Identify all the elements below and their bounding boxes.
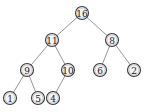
tree-nodes: 1611891062154 — [4, 7, 141, 105]
node-label: 16 — [76, 9, 88, 19]
node-label: 11 — [46, 36, 57, 46]
node-label: 1 — [7, 94, 13, 104]
tree-edges — [13, 17, 130, 92]
node-label: 10 — [62, 66, 74, 76]
node-label: 6 — [97, 66, 103, 76]
tree-edge-11-9 — [31, 45, 48, 65]
tree-edge-8-6 — [102, 46, 109, 64]
tree-edge-9-5 — [29, 76, 35, 92]
node-label: 5 — [35, 94, 41, 104]
heap-tree-diagram: 1611891062154 — [0, 0, 145, 112]
node-label: 4 — [50, 94, 56, 104]
tree-node-5: 5 — [32, 92, 45, 105]
tree-edge-10-4 — [56, 76, 65, 93]
tree-node-2: 2 — [128, 64, 141, 77]
tree-node-9: 9 — [21, 64, 34, 77]
tree-edge-8-2 — [116, 45, 130, 65]
tree-node-10: 10 — [62, 64, 75, 77]
tree-node-4: 4 — [47, 92, 60, 105]
tree-edge-16-11 — [57, 17, 77, 35]
tree-node-8: 8 — [106, 34, 119, 47]
tree-node-11: 11 — [46, 34, 59, 47]
node-label: 9 — [24, 66, 30, 76]
tree-node-6: 6 — [94, 64, 107, 77]
tree-node-1: 1 — [4, 92, 17, 105]
tree-edge-16-8 — [87, 17, 107, 35]
tree-edge-9-1 — [13, 76, 23, 93]
node-label: 8 — [109, 36, 115, 46]
tree-edge-11-10 — [55, 46, 65, 65]
tree-node-16: 16 — [76, 7, 89, 20]
node-label: 2 — [131, 66, 137, 76]
